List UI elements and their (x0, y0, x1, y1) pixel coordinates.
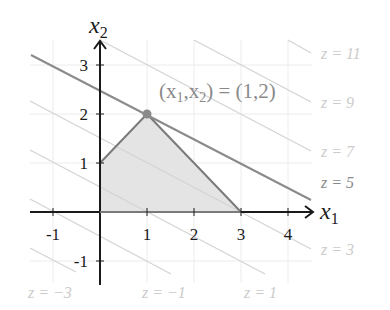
tick-x-4: 4 (284, 225, 293, 244)
lp-diagram: -1 1 2 3 4 3 2 1 -1 x2 x1 (x1,x2) = (1,2… (0, 0, 390, 310)
x-axis-label: x1 (319, 198, 339, 227)
tick-x-m1: -1 (46, 225, 60, 244)
label-z11: z = 11 (320, 45, 361, 62)
tick-y-3: 3 (80, 56, 89, 75)
label-z1: z = 1 (243, 284, 277, 301)
optimal-point-marker (143, 110, 152, 119)
label-z7: z = 7 (320, 143, 355, 160)
label-z3: z = 3 (320, 241, 354, 258)
tick-x-1: 1 (143, 225, 152, 244)
y-axis-label: x2 (88, 12, 108, 41)
level-line-z3 (30, 101, 311, 249)
optimal-point-label: (x1,x2) = (1,2) (159, 79, 276, 105)
label-z9: z = 9 (320, 94, 354, 111)
label-zm3: z = −3 (27, 284, 72, 301)
tick-y-m1: -1 (74, 252, 88, 271)
tick-x-3: 3 (237, 225, 246, 244)
tick-y-1: 1 (80, 154, 89, 173)
label-zm1: z = −1 (141, 284, 186, 301)
tick-y-2: 2 (80, 105, 89, 124)
level-line-z11 (288, 40, 311, 53)
label-z5: z = 5 (320, 174, 354, 191)
tick-x-2: 2 (190, 225, 199, 244)
